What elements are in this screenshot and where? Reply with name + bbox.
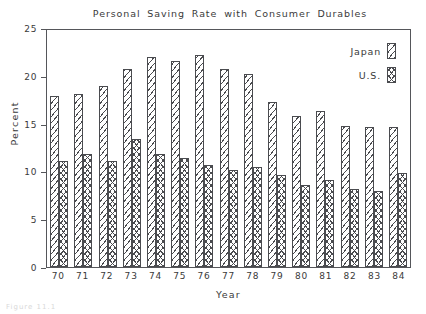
bar-japan-71 bbox=[74, 94, 83, 267]
bar-group bbox=[192, 30, 216, 267]
bar-us-76 bbox=[204, 165, 213, 267]
bar-group bbox=[216, 30, 240, 267]
y-axis-tick-label: 15 bbox=[24, 120, 41, 129]
legend-item-us: U.S. bbox=[359, 67, 396, 83]
legend-label-us: U.S. bbox=[359, 70, 381, 81]
legend-item-japan: Japan bbox=[351, 43, 397, 59]
bar-japan-70 bbox=[50, 96, 59, 267]
y-axis-tick-mark bbox=[41, 268, 46, 269]
bar-us-73 bbox=[132, 139, 141, 267]
bar-us-71 bbox=[83, 154, 92, 267]
x-axis-tick-label: 72 bbox=[95, 271, 119, 287]
chart-title: Personal Saving Rate with Consumer Durab… bbox=[60, 8, 400, 19]
bar-us-77 bbox=[229, 170, 238, 268]
bar-group bbox=[313, 30, 337, 267]
y-axis-tick: 20 bbox=[0, 77, 46, 78]
bar-group bbox=[47, 30, 71, 267]
bar-japan-83 bbox=[365, 127, 374, 267]
bar-group bbox=[241, 30, 265, 267]
bar-japan-72 bbox=[99, 86, 108, 267]
y-axis-label: Percent bbox=[9, 74, 20, 174]
y-axis-tick-label: 25 bbox=[24, 25, 41, 34]
x-axis-tick-label: 79 bbox=[265, 271, 289, 287]
bar-japan-84 bbox=[389, 127, 398, 267]
bar-us-75 bbox=[180, 158, 189, 267]
y-axis-tick-mark bbox=[41, 125, 46, 126]
bar-japan-75 bbox=[171, 61, 180, 267]
y-axis-tick: 5 bbox=[0, 220, 46, 221]
x-axis-tick-labels: 707172737475767778798081828384 bbox=[46, 271, 411, 287]
x-axis-tick-label: 80 bbox=[289, 271, 313, 287]
x-axis-tick-label: 76 bbox=[192, 271, 216, 287]
bar-japan-82 bbox=[341, 126, 350, 267]
x-axis-tick-label: 70 bbox=[46, 271, 70, 287]
y-axis-tick-label: 0 bbox=[31, 264, 41, 273]
bar-us-79 bbox=[277, 175, 286, 267]
bar-japan-77 bbox=[220, 69, 229, 267]
bar-group bbox=[120, 30, 144, 267]
y-axis-tick-label: 10 bbox=[24, 168, 41, 177]
y-axis-tick: 0 bbox=[0, 268, 46, 269]
bar-group bbox=[265, 30, 289, 267]
bar-us-72 bbox=[108, 161, 117, 267]
chart-legend: Japan U.S. bbox=[351, 43, 397, 83]
legend-swatch-us bbox=[387, 67, 396, 83]
y-axis-tick-label: 20 bbox=[24, 72, 41, 81]
plot-frame: Japan U.S. bbox=[46, 29, 411, 268]
legend-label-japan: Japan bbox=[351, 46, 382, 57]
bar-group bbox=[71, 30, 95, 267]
x-axis-tick-label: 84 bbox=[387, 271, 411, 287]
bar-japan-74 bbox=[147, 57, 156, 267]
x-axis-tick-label: 74 bbox=[143, 271, 167, 287]
bar-us-74 bbox=[156, 154, 165, 267]
x-axis-tick-label: 75 bbox=[168, 271, 192, 287]
bar-group bbox=[168, 30, 192, 267]
bar-group bbox=[95, 30, 119, 267]
bar-japan-80 bbox=[292, 116, 301, 267]
x-axis-tick-label: 81 bbox=[314, 271, 338, 287]
bar-us-84 bbox=[398, 173, 407, 267]
bar-us-78 bbox=[253, 167, 262, 267]
bar-us-80 bbox=[301, 185, 310, 267]
legend-swatch-japan bbox=[387, 43, 396, 59]
bar-us-82 bbox=[350, 189, 359, 267]
x-axis-tick-label: 83 bbox=[362, 271, 386, 287]
chart-figure: Personal Saving Rate with Consumer Durab… bbox=[0, 0, 426, 314]
x-axis-tick-label: 78 bbox=[241, 271, 265, 287]
bar-us-81 bbox=[325, 180, 334, 267]
bar-japan-73 bbox=[123, 69, 132, 267]
bar-japan-78 bbox=[244, 74, 253, 267]
y-axis-tick: 10 bbox=[0, 172, 46, 173]
y-axis-tick-mark bbox=[41, 220, 46, 221]
x-axis-tick-label: 71 bbox=[70, 271, 94, 287]
x-axis-label: Year bbox=[46, 289, 411, 300]
y-axis-tick-mark bbox=[41, 29, 46, 30]
y-axis-tick-mark bbox=[41, 77, 46, 78]
bar-group bbox=[289, 30, 313, 267]
x-axis-tick-label: 82 bbox=[338, 271, 362, 287]
bar-us-70 bbox=[59, 161, 68, 267]
bar-japan-81 bbox=[316, 111, 325, 267]
bar-group bbox=[144, 30, 168, 267]
y-axis-tick-mark bbox=[41, 172, 46, 173]
y-axis-tick-label: 5 bbox=[31, 216, 41, 225]
y-axis-tick: 25 bbox=[0, 29, 46, 30]
bar-japan-79 bbox=[268, 102, 277, 267]
bar-us-83 bbox=[374, 191, 383, 267]
x-axis-tick-label: 73 bbox=[119, 271, 143, 287]
y-axis-tick: 15 bbox=[0, 125, 46, 126]
figure-caption-artifact: Figure 11.1 bbox=[6, 303, 56, 311]
bar-japan-76 bbox=[195, 55, 204, 267]
x-axis-tick-label: 77 bbox=[216, 271, 240, 287]
